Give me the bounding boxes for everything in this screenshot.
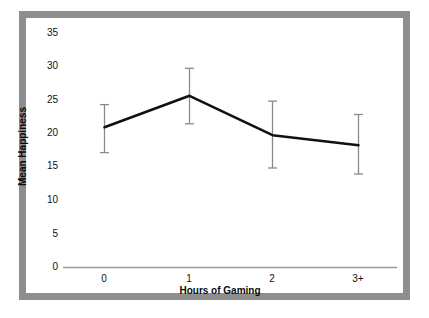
y-tick-label-5: 5 <box>36 228 58 239</box>
x-tick-label-1: 1 <box>174 273 204 284</box>
y-tick-label-15: 15 <box>36 160 58 171</box>
x-tick-label-2: 2 <box>257 273 287 284</box>
y-tick-label-10: 10 <box>36 194 58 205</box>
y-tick-label-0: 0 <box>36 261 58 272</box>
error-bar-0 <box>100 105 109 153</box>
x-tick-label-3plus: 3+ <box>343 273 373 284</box>
line-chart-plot <box>0 0 429 318</box>
series-line-mean-happiness <box>105 96 359 145</box>
y-tick-label-30: 30 <box>36 60 58 71</box>
y-tick-label-25: 25 <box>36 94 58 105</box>
series-line-group <box>105 96 359 145</box>
x-axis-label: Hours of Gaming <box>110 285 330 296</box>
x-tick-label-0: 0 <box>89 273 119 284</box>
figure-container: 35 30 25 20 15 10 5 0 0 1 2 3+ Mean Happ… <box>0 0 429 318</box>
y-tick-label-20: 20 <box>36 127 58 138</box>
error-bars-group <box>100 68 363 174</box>
y-axis-label: Mean Happiness <box>17 97 28 197</box>
y-tick-label-35: 35 <box>36 27 58 38</box>
